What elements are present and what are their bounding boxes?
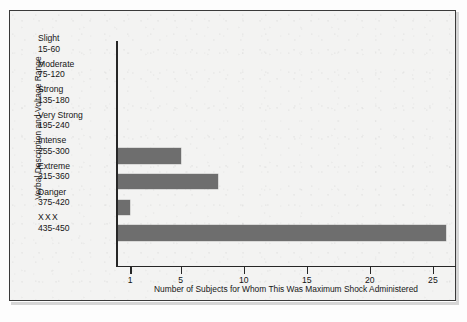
bar	[118, 174, 219, 190]
bar-row	[118, 118, 456, 144]
bar-row	[118, 143, 456, 169]
chart-frame: Verbal Description and Voltage Range Sli…	[9, 10, 456, 301]
category-name: Danger	[38, 187, 66, 197]
bar	[118, 200, 131, 216]
category-range: 255-300	[38, 146, 70, 156]
category-name: Very Strong	[38, 110, 83, 120]
bar-row	[118, 195, 456, 221]
category-label-xxx: XXX 435-450	[38, 212, 106, 238]
x-tick-mark	[307, 267, 308, 274]
category-label-intense: Intense 255-300	[38, 135, 106, 161]
category-range: 15-60	[38, 44, 60, 54]
bar-row	[118, 92, 456, 118]
category-label-column: Slight 15-60 Moderate 75-120 Strong 135-…	[38, 33, 106, 238]
plot-area: Verbal Description and Voltage Range Sli…	[10, 11, 457, 302]
category-name: Moderate	[38, 59, 74, 69]
bar	[118, 148, 181, 164]
category-range: 375-420	[38, 197, 70, 207]
category-name: Intense	[38, 135, 66, 145]
bar-series	[118, 41, 456, 266]
x-axis-title: Number of Subjects for Whom This Was Max…	[117, 284, 455, 294]
category-name: Extreme	[38, 161, 70, 171]
x-tick-mark	[370, 267, 371, 274]
bar-row	[118, 41, 456, 67]
category-name: Slight	[38, 33, 60, 43]
frame-shadow-bottom	[11, 302, 458, 305]
x-tick-mark	[244, 267, 245, 274]
category-label-very-strong: Very Strong 195-240	[38, 110, 106, 136]
bar	[118, 225, 446, 241]
bar-row	[118, 67, 456, 93]
category-label-danger: Danger 375-420	[38, 187, 106, 213]
bar-row	[118, 220, 456, 246]
category-name: Strong	[38, 84, 63, 94]
bar-row	[118, 169, 456, 195]
figure-container: Verbal Description and Voltage Range Sli…	[0, 0, 467, 322]
category-label-extreme: Extreme 315-360	[38, 161, 106, 187]
x-tick-mark	[130, 267, 131, 274]
category-range: 315-360	[38, 171, 70, 181]
category-label-moderate: Moderate 75-120	[38, 59, 106, 85]
x-tick-mark	[181, 267, 182, 274]
x-tick-mark	[433, 267, 434, 274]
category-name: XXX	[38, 212, 59, 222]
category-label-slight: Slight 15-60	[38, 33, 106, 59]
category-label-strong: Strong 135-180	[38, 84, 106, 110]
category-range: 75-120	[38, 69, 65, 79]
category-range: 195-240	[38, 120, 70, 130]
category-range: 135-180	[38, 95, 70, 105]
category-range: 435-450	[38, 223, 70, 233]
